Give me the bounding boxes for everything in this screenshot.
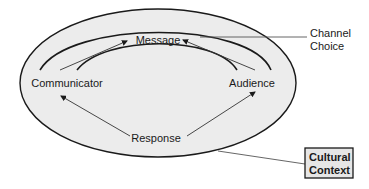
channel-choice-label-line2: Choice bbox=[310, 40, 344, 52]
cultural-context-label-line1: Cultural bbox=[309, 151, 351, 163]
response-label: Response bbox=[131, 132, 181, 144]
cultural-context-leader-line bbox=[218, 151, 305, 164]
message-label: Message bbox=[136, 34, 181, 46]
communicator-label: Communicator bbox=[31, 77, 103, 89]
audience-label: Audience bbox=[229, 77, 275, 89]
cultural-context-label-line2: Context bbox=[309, 164, 350, 176]
channel-choice-label-line1: Channel bbox=[310, 27, 351, 39]
communication-model-diagram: Message Communicator Audience Response C… bbox=[0, 0, 369, 189]
